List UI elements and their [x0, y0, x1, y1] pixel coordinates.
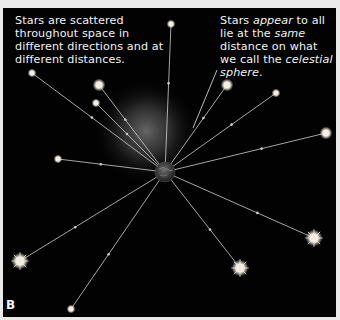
star-burst-icon [305, 229, 323, 247]
earth-icon [155, 162, 175, 182]
star-icon [221, 79, 234, 92]
star-icon [92, 99, 101, 108]
sphere-projection-marker [256, 212, 259, 215]
caption-fragment: appear [253, 14, 293, 27]
sphere-projection-marker [100, 163, 103, 166]
panel-label: B [6, 298, 15, 312]
caption-fragment: same [274, 27, 305, 40]
caption-celestial-sphere: Stars appear to all lie at the same dist… [220, 14, 335, 79]
star-icon [320, 127, 333, 140]
sphere-projection-marker [124, 119, 127, 122]
sight-line [71, 172, 165, 309]
caption-scattered-stars: Stars are scattered throughout space in … [15, 14, 165, 66]
star-icon [93, 79, 106, 92]
sphere-projection-marker [260, 147, 263, 150]
star-icon [167, 20, 176, 29]
sight-line [20, 172, 165, 261]
sight-line [165, 172, 240, 268]
sphere-projection-marker [126, 133, 129, 136]
caption-fragment: . [259, 66, 263, 79]
sphere-projection-marker [230, 123, 233, 126]
sphere-projection-marker [209, 228, 212, 231]
caption-leader-line [193, 70, 217, 128]
star-icon [54, 155, 63, 164]
star-icon [272, 89, 281, 98]
sphere-projection-marker [167, 82, 170, 85]
sphere-projection-marker [107, 253, 110, 256]
star-icon [67, 305, 76, 314]
sphere-projection-marker [74, 226, 77, 229]
star-icon [28, 69, 37, 78]
sphere-projection-marker [202, 117, 205, 120]
star-burst-icon [11, 252, 29, 270]
star-burst-icon [231, 259, 249, 277]
caption-fragment: Stars [220, 14, 253, 27]
sight-line [165, 172, 314, 238]
sphere-projection-marker [91, 116, 94, 119]
figure-panel: Stars are scattered throughout space in … [3, 8, 336, 317]
